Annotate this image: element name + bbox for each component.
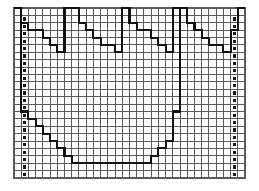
row-tick-marker: [233, 99, 236, 102]
row-tick-marker: [233, 17, 236, 20]
row-tick-marker: [23, 173, 26, 176]
row-tick-marker: [233, 25, 236, 28]
row-tick-marker: [233, 32, 236, 35]
row-tick-marker: [23, 151, 26, 154]
row-tick-marker: [23, 69, 26, 72]
row-tick-marker: [233, 91, 236, 94]
row-tick-marker: [23, 40, 26, 43]
row-tick-marker: [233, 158, 236, 161]
row-tick-marker: [23, 62, 26, 65]
row-tick-marker: [23, 165, 26, 168]
row-tick-marker: [23, 158, 26, 161]
graph-paper-plot: [0, 0, 259, 191]
row-tick-marker: [23, 77, 26, 80]
row-tick-marker: [23, 32, 26, 35]
row-tick-marker: [23, 84, 26, 87]
row-tick-marker: [233, 106, 236, 109]
row-tick-marker: [233, 84, 236, 87]
row-tick-marker: [233, 114, 236, 117]
row-tick-marker: [23, 54, 26, 57]
row-tick-marker: [23, 114, 26, 117]
row-tick-marker: [233, 143, 236, 146]
row-tick-marker: [23, 106, 26, 109]
row-tick-marker: [233, 77, 236, 80]
figure-container: [0, 0, 259, 191]
row-tick-marker: [23, 128, 26, 131]
row-tick-marker: [233, 69, 236, 72]
row-tick-marker: [233, 62, 236, 65]
row-tick-marker: [23, 91, 26, 94]
row-tick-marker: [23, 121, 26, 124]
row-tick-marker: [233, 40, 236, 43]
row-tick-marker: [23, 17, 26, 20]
row-tick-marker: [233, 165, 236, 168]
row-tick-marker: [23, 143, 26, 146]
row-tick-marker: [233, 173, 236, 176]
row-tick-marker: [233, 54, 236, 57]
row-tick-marker: [233, 128, 236, 131]
row-tick-marker: [23, 99, 26, 102]
row-tick-marker: [233, 47, 236, 50]
row-tick-marker: [23, 25, 26, 28]
row-tick-marker: [233, 151, 236, 154]
row-tick-marker: [23, 136, 26, 139]
row-tick-marker: [233, 136, 236, 139]
row-tick-marker: [23, 47, 26, 50]
row-tick-marker: [233, 121, 236, 124]
